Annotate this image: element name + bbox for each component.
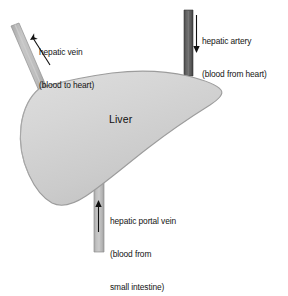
liver-label: Liver (109, 113, 132, 125)
hepatic-portal-vein-label: hepatic portal vein (blood from small in… (110, 194, 176, 296)
hepatic-artery-label-line1: hepatic artery (202, 36, 267, 47)
hepatic-portal-vein-label-line2: (blood from (110, 249, 176, 260)
hepatic-vein-label: hepatic vein (blood to heart) (39, 25, 94, 113)
hepatic-vein-label-line2: (blood to heart) (39, 80, 94, 91)
hepatic-portal-vein-label-line3: small intestine) (110, 282, 176, 293)
hepatic-artery-label-line2: (blood from heart) (202, 69, 267, 80)
hepatic-vein-label-line1: hepatic vein (39, 47, 94, 58)
hepatic-artery-arrow (193, 15, 199, 53)
hepatic-artery-vessel (184, 10, 193, 76)
hepatic-portal-vein-label-line1: hepatic portal vein (110, 216, 176, 227)
hepatic-artery-label: hepatic artery (blood from heart) (202, 14, 267, 102)
